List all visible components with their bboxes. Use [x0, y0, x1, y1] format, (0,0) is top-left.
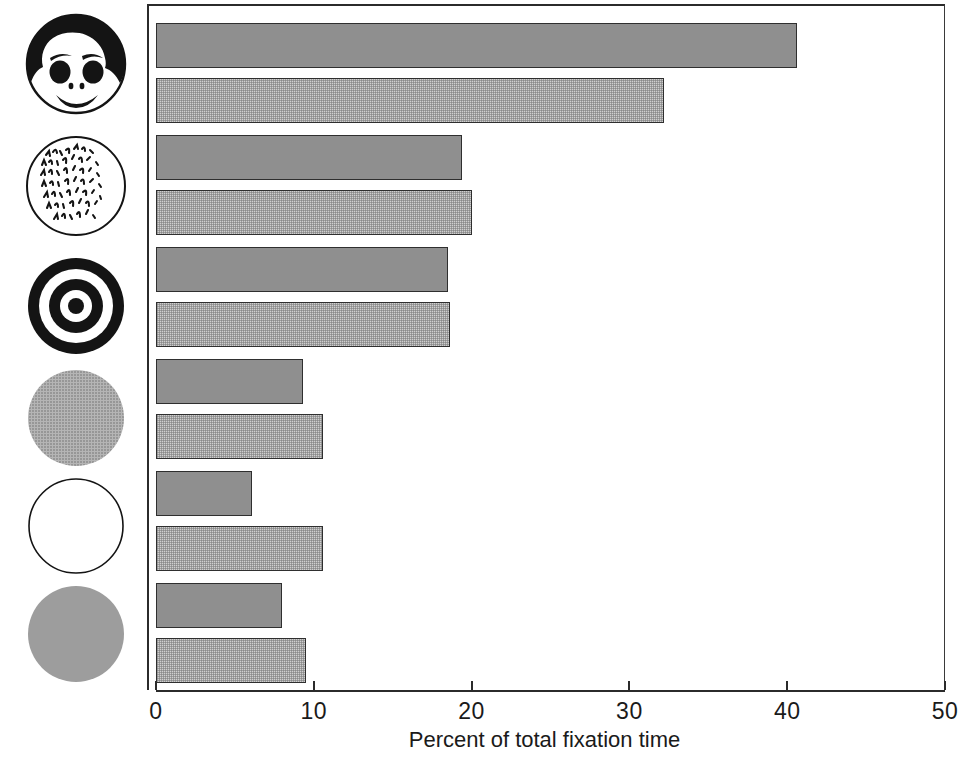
bar-gray-circle-halftone-dark-gray-bar: [156, 359, 303, 404]
fixation-time-bar-chart: 01020304050 Percent of total fixation ti…: [0, 0, 979, 758]
x-tick-30: [628, 681, 630, 690]
bar-white-circle-outline-dark-gray-bar: [156, 471, 252, 516]
bar-gray-circle-solid-light-gray-bar: [156, 638, 306, 683]
white-circle-outline-stimulus-icon: [20, 470, 132, 582]
bar-white-circle-outline-light-gray-bar: [156, 526, 323, 571]
x-tick-label-30: 30: [616, 698, 643, 725]
bar-face-light-gray-bar: [156, 78, 664, 123]
x-tick-label-40: 40: [774, 698, 801, 725]
x-tick-label-0: 0: [149, 698, 162, 725]
bar-handwritten-text-light-gray-bar: [156, 190, 472, 235]
x-tick-50: [944, 681, 946, 690]
bullseye-stimulus-icon: [20, 250, 132, 362]
x-axis-title: Percent of total fixation time: [0, 727, 979, 753]
bar-gray-circle-solid-dark-gray-bar: [156, 583, 282, 628]
x-tick-40: [786, 681, 788, 690]
x-tick-10: [313, 681, 315, 690]
face-stimulus-icon: [20, 8, 132, 120]
bar-group: [147, 4, 945, 690]
gray-circle-halftone-stimulus-icon: [20, 362, 132, 474]
bar-bullseye-dark-gray-bar: [156, 247, 448, 292]
x-tick-label-10: 10: [301, 698, 328, 725]
x-tick-label-50: 50: [932, 698, 959, 725]
handwritten-text-stimulus-icon: [20, 130, 132, 242]
gray-circle-solid-stimulus-icon: [20, 578, 132, 690]
bar-handwritten-text-dark-gray-bar: [156, 135, 462, 180]
x-axis-line: [156, 690, 945, 692]
x-tick-0: [155, 681, 157, 690]
stimulus-icon-column: [0, 0, 147, 700]
bar-bullseye-light-gray-bar: [156, 302, 450, 347]
bar-face-dark-gray-bar: [156, 23, 797, 68]
x-tick-20: [471, 681, 473, 690]
x-tick-label-20: 20: [458, 698, 485, 725]
bar-gray-circle-halftone-light-gray-bar: [156, 414, 323, 459]
